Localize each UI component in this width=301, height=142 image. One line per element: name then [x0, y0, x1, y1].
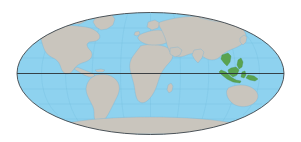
- world-map-svg: [0, 0, 301, 142]
- world-distribution-map-figure: [0, 0, 301, 142]
